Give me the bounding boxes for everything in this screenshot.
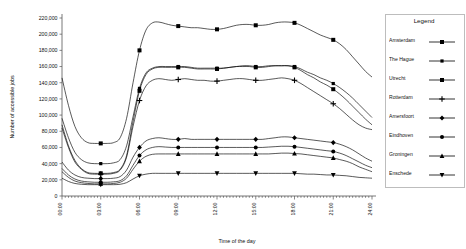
legend-item-square-icon: [427, 34, 457, 46]
svg-text:180,000: 180,000: [39, 47, 58, 53]
svg-text:Time of the day: Time of the day: [219, 238, 256, 244]
plot-area: 020,00040,00060,00080,000100,000120,0001…: [0, 0, 380, 249]
series-enschede: [62, 171, 372, 187]
svg-text:40,000: 40,000: [42, 161, 58, 167]
svg-text:140,000: 140,000: [39, 80, 58, 86]
svg-text:21:00: 21:00: [328, 202, 334, 215]
legend-item-eindhoven[interactable]: Eindhoven: [385, 125, 463, 144]
series-groningen: [62, 151, 372, 186]
legend-item-label: Groningen: [389, 151, 427, 157]
svg-text:100,000: 100,000: [39, 112, 58, 118]
svg-text:20,000: 20,000: [42, 177, 58, 183]
svg-text:120,000: 120,000: [39, 96, 58, 102]
svg-text:80,000: 80,000: [42, 128, 58, 134]
chart-figure: 020,00040,00060,00080,000100,000120,0001…: [0, 0, 466, 249]
legend-item-label: Rotterdam: [389, 94, 427, 100]
legend-item-label: Amsterdam: [389, 37, 427, 43]
legend-item-square-small-icon: [427, 53, 457, 65]
legend-item-label: Enschede: [389, 170, 427, 176]
legend-item-utrecht[interactable]: Utrecht: [385, 68, 463, 87]
legend-item-triangle-up-icon: [427, 148, 457, 160]
legend-item-label: Amersfoort: [389, 113, 427, 119]
svg-text:15:00: 15:00: [251, 202, 257, 215]
legend-item-enschede[interactable]: Enschede: [385, 163, 463, 182]
legend-item-circle-icon: [427, 129, 457, 141]
legend-item-groningen[interactable]: Groningen: [385, 144, 463, 163]
svg-text:03:00: 03:00: [96, 202, 102, 215]
legend-item-amersfoort[interactable]: Amersfoort: [385, 106, 463, 125]
legend-item-triangle-down-icon: [427, 167, 457, 179]
svg-text:Number of accessible jobs: Number of accessible jobs: [9, 75, 15, 139]
legend-item-square-icon: [427, 72, 457, 84]
svg-text:00:00: 00:00: [57, 202, 63, 215]
legend-item-the-hague[interactable]: The Hague: [385, 49, 463, 68]
svg-text:60,000: 60,000: [42, 144, 58, 150]
svg-text:18:00: 18:00: [290, 202, 296, 215]
line-chart-svg: 020,00040,00060,00080,000100,000120,0001…: [0, 0, 380, 249]
series-rotterdam: [62, 77, 372, 177]
legend-item-diamond-icon: [427, 110, 457, 122]
legend-item-label: Eindhoven: [389, 132, 427, 138]
svg-text:24:00: 24:00: [367, 202, 373, 215]
legend-item-label: Utrecht: [389, 75, 427, 81]
legend-items: AmsterdamThe HagueUtrechtRotterdamAmersf…: [385, 30, 463, 182]
legend-title: Legend: [385, 14, 463, 24]
svg-text:12:00: 12:00: [212, 202, 218, 215]
svg-text:0: 0: [55, 193, 58, 199]
svg-text:09:00: 09:00: [173, 202, 179, 215]
svg-text:160,000: 160,000: [39, 63, 58, 69]
legend-item-plus-icon: [427, 91, 457, 103]
svg-text:200,000: 200,000: [39, 31, 58, 37]
svg-text:06:00: 06:00: [135, 202, 141, 215]
legend-item-amsterdam[interactable]: Amsterdam: [385, 30, 463, 49]
legend-item-rotterdam[interactable]: Rotterdam: [385, 87, 463, 106]
legend-item-label: The Hague: [389, 56, 427, 62]
svg-text:220,000: 220,000: [39, 15, 58, 21]
